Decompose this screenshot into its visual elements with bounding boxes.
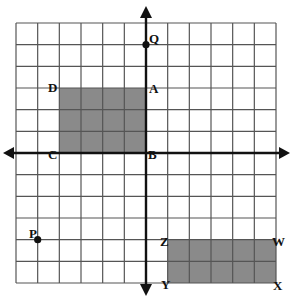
label-P: P xyxy=(29,226,37,241)
label-C: C xyxy=(48,147,57,162)
y-axis-down-arrow-icon xyxy=(140,284,152,296)
label-B: B xyxy=(148,147,157,162)
label-D: D xyxy=(48,80,57,95)
label-W: W xyxy=(272,234,285,249)
x-axis-right-arrow-icon xyxy=(279,147,290,159)
coordinate-plane-svg: Q A B C D P Z W Y X xyxy=(0,0,293,297)
x-axis-left-arrow-icon xyxy=(3,147,14,159)
y-axis-up-arrow-icon xyxy=(140,6,152,18)
label-X: X xyxy=(273,278,283,293)
label-Y: Y xyxy=(161,277,171,292)
label-A: A xyxy=(149,81,159,96)
label-Q: Q xyxy=(149,31,159,46)
coordinate-plane-figure: Q A B C D P Z W Y X xyxy=(0,0,293,297)
label-Z: Z xyxy=(160,234,169,249)
